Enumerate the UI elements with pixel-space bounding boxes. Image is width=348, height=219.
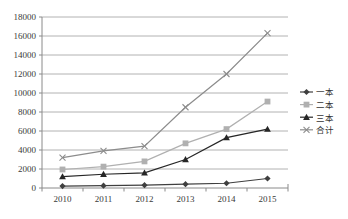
- chart-legend: 一本二本三本合计: [300, 87, 334, 135]
- x-tick-label: 2013: [177, 194, 196, 204]
- legend-label: 合计: [316, 125, 334, 135]
- data-point-marker: [264, 175, 270, 181]
- y-tick-label: 2000: [18, 164, 37, 174]
- y-tick-label: 10000: [14, 88, 37, 98]
- series-4: [60, 30, 271, 160]
- legend-item-4[interactable]: 合计: [300, 125, 334, 135]
- y-tick-label: 16000: [14, 31, 37, 41]
- y-tick-label: 14000: [14, 50, 37, 60]
- data-point-marker: [182, 156, 189, 162]
- series-line: [63, 33, 268, 157]
- legend-item-2[interactable]: 二本: [300, 100, 334, 110]
- legend-label: 三本: [316, 113, 334, 123]
- x-tick-label: 2011: [95, 194, 113, 204]
- x-tick-label: 2015: [259, 194, 278, 204]
- legend-marker-icon: [304, 102, 310, 108]
- legend-item-1[interactable]: 一本: [300, 87, 334, 97]
- data-point-marker: [142, 159, 148, 165]
- y-tick-label: 0: [32, 183, 37, 193]
- data-point-marker: [265, 30, 271, 36]
- x-tick-label: 2010: [54, 194, 73, 204]
- data-point-marker: [264, 126, 271, 132]
- data-point-marker: [183, 140, 189, 146]
- x-tick-label: 2012: [136, 194, 154, 204]
- data-point-marker: [183, 104, 189, 110]
- line-chart: 0200040006000800010000120001400016000180…: [0, 0, 348, 219]
- series-line: [63, 179, 268, 187]
- data-point-marker: [224, 126, 230, 132]
- data-point-marker: [223, 180, 229, 186]
- y-tick-label: 18000: [14, 12, 37, 22]
- y-tick-label: 6000: [18, 126, 37, 136]
- chart-container: 0200040006000800010000120001400016000180…: [0, 0, 348, 219]
- data-point-marker: [60, 167, 66, 173]
- data-point-marker: [182, 181, 188, 187]
- x-tick-label: 2014: [218, 194, 237, 204]
- legend-label: 二本: [316, 100, 334, 110]
- y-tick-label: 12000: [14, 69, 37, 79]
- data-point-marker: [265, 99, 271, 105]
- legend-label: 一本: [316, 87, 334, 97]
- series-1: [59, 175, 270, 189]
- data-point-marker: [101, 164, 107, 170]
- y-tick-label: 4000: [18, 145, 37, 155]
- y-tick-label: 8000: [18, 107, 37, 117]
- data-point-marker: [141, 182, 147, 188]
- legend-item-3[interactable]: 三本: [300, 113, 334, 123]
- legend-marker-icon: [303, 89, 309, 95]
